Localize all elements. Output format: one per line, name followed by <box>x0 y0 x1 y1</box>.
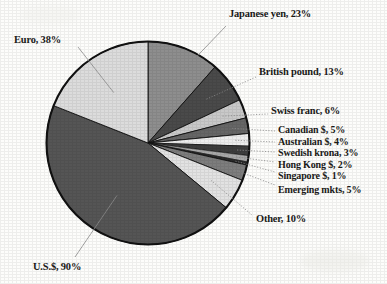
small-slice-label-stack: Canadian $, 5% Australian $, 4% Swedish … <box>278 124 361 196</box>
label-japanese-yen: Japanese yen, 23% <box>229 8 311 19</box>
label-australian-dollar: Australian $, 4% <box>278 136 349 148</box>
label-euro: Euro, 38% <box>14 34 61 45</box>
label-british-pound: British pound, 13% <box>259 66 344 77</box>
label-swedish-krona: Swedish krona, 3% <box>278 147 358 159</box>
label-emerging-markets: Emerging mkts, 5% <box>278 184 361 196</box>
label-other: Other, 10% <box>256 213 306 224</box>
label-us-dollar: U.S.$, 90% <box>33 261 81 272</box>
label-hong-kong-dollar: Hong Kong $, 2% <box>278 159 352 171</box>
pie-chart-figure: Japanese yen, 23% Euro, 38% British poun… <box>0 0 387 284</box>
label-canadian-dollar: Canadian $, 5% <box>278 124 345 136</box>
label-swiss-franc: Swiss franc, 6% <box>271 105 340 116</box>
label-singapore-dollar: Singapore $, 1% <box>278 170 346 182</box>
